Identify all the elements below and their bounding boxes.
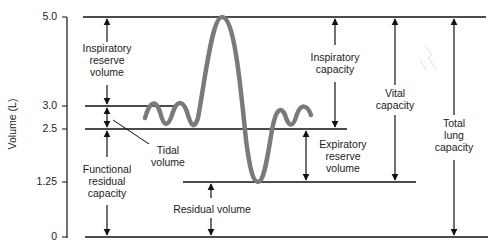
label-functional-residual-capacity: Functional residual capacity xyxy=(77,163,137,199)
y-tick-3-0: 3.0 xyxy=(17,99,57,111)
label-residual-volume: Residual volume xyxy=(168,203,256,215)
y-tick-2-5: 2.5 xyxy=(17,122,57,134)
scan-artifact xyxy=(420,45,437,70)
y-tick-5-0: 5.0 xyxy=(17,10,57,22)
y-tick-0: 0 xyxy=(17,230,57,242)
label-inspiratory-reserve-volume: Inspiratory reserve volume xyxy=(77,42,137,78)
y-axis xyxy=(62,17,67,238)
level-lines xyxy=(83,17,488,237)
label-vital-capacity: Vital capacity xyxy=(373,87,417,111)
label-tidal-volume: Tidal volume xyxy=(146,144,190,168)
label-total-lung-capacity: Total lung capacity xyxy=(433,117,475,153)
y-tick-1-25: 1.25 xyxy=(17,175,57,187)
label-inspiratory-capacity: Inspiratory capacity xyxy=(305,51,365,75)
label-expiratory-reserve-volume: Expiratory reserve volume xyxy=(313,138,373,174)
